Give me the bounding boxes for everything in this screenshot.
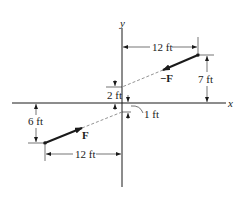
force-couple-diagram: x y −F F 12 ft 7 ft 2 ft 1 ft 6 ft 12 ft	[0, 0, 245, 199]
neg-f-arrow	[163, 55, 198, 70]
top-horizontal-dim-label: 12 ft	[152, 41, 172, 53]
bottom-vertical-dim-label: 6 ft	[28, 115, 43, 127]
y-axis-label: y	[119, 17, 125, 29]
top-vertical-dim-label: 7 ft	[198, 73, 213, 85]
f-label: F	[82, 129, 89, 141]
one-ft-leader	[131, 106, 143, 113]
neg-f-label: −F	[160, 72, 173, 84]
line-of-action-f	[82, 112, 122, 128]
lower-intercept-dim-label: 1 ft	[144, 108, 159, 120]
bottom-horizontal-dim-label: 12 ft	[75, 148, 95, 160]
line-of-action-neg-f	[122, 70, 163, 87]
f-arrow	[45, 128, 82, 143]
upper-intercept-dim-label: 2 ft	[107, 89, 122, 101]
x-axis-label: x	[227, 97, 233, 109]
